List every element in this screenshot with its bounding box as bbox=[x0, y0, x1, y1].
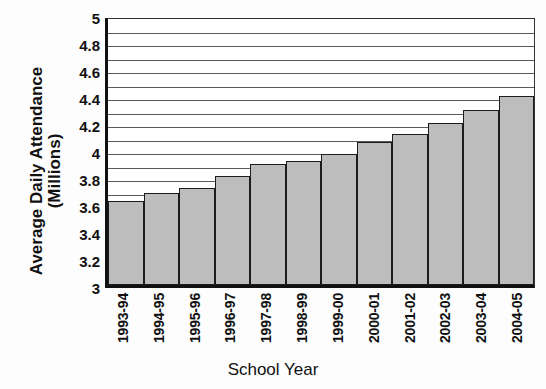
x-axis-tick-cell: 2003-04 bbox=[463, 291, 499, 357]
y-axis-tick-label: 3.8 bbox=[79, 172, 100, 189]
x-axis-tick-label: 1994-95 bbox=[151, 293, 167, 343]
x-axis-tick-cell: 1998-99 bbox=[284, 291, 320, 357]
x-axis-title: School Year bbox=[0, 360, 546, 380]
x-axis-tick-label: 2001-02 bbox=[402, 293, 418, 343]
y-axis-tick-labels: 54.84.64.44.243.83.63.43.23 bbox=[52, 18, 100, 288]
y-axis-tick-label: 5 bbox=[92, 10, 100, 27]
y-axis-tick-label: 4 bbox=[92, 145, 100, 162]
y-axis-tick-label: 4.6 bbox=[79, 64, 100, 81]
plot-area bbox=[105, 18, 535, 288]
y-axis-tick-label: 3 bbox=[92, 280, 100, 297]
x-axis-tick-cell: 2000-01 bbox=[356, 291, 392, 357]
x-axis-tick-label: 1995-96 bbox=[187, 293, 203, 343]
bar bbox=[144, 193, 180, 285]
y-axis-title-line-1: Average Daily Attendance bbox=[28, 67, 46, 275]
bar bbox=[428, 123, 464, 285]
x-axis-tick-cell: 1993-94 bbox=[105, 291, 141, 357]
x-axis-tick-cell: 1996-97 bbox=[212, 291, 248, 357]
bar bbox=[499, 96, 535, 285]
clipped-chart-title bbox=[300, 0, 546, 5]
x-axis-tick-label: 1997-98 bbox=[258, 293, 274, 343]
x-axis-tick-cell: 1995-96 bbox=[177, 291, 213, 357]
bar-series bbox=[108, 19, 534, 285]
x-axis-tick-label: 2004-05 bbox=[509, 293, 525, 343]
bar bbox=[108, 201, 144, 285]
bar bbox=[215, 176, 251, 285]
x-axis-tick-label: 2000-01 bbox=[366, 293, 382, 343]
bar bbox=[392, 134, 428, 285]
x-axis-tick-cell: 2004-05 bbox=[499, 291, 535, 357]
bar bbox=[357, 142, 393, 285]
x-axis-tick-cell: 2002-03 bbox=[427, 291, 463, 357]
bar bbox=[286, 161, 322, 285]
y-axis-tick-label: 4.2 bbox=[79, 118, 100, 135]
bar bbox=[463, 110, 499, 286]
y-axis-tick-label: 3.2 bbox=[79, 253, 100, 270]
x-axis-tick-label: 1996-97 bbox=[222, 293, 238, 343]
x-axis-tick-labels: 1993-941994-951995-961996-971997-981998-… bbox=[105, 291, 535, 357]
y-axis-tick-label: 4.8 bbox=[79, 37, 100, 54]
x-axis-tick-cell: 1997-98 bbox=[248, 291, 284, 357]
bar bbox=[250, 164, 286, 286]
bar bbox=[321, 154, 357, 285]
y-axis-tick-label: 3.6 bbox=[79, 199, 100, 216]
x-axis-tick-cell: 2001-02 bbox=[392, 291, 428, 357]
x-axis-tick-label: 2002-03 bbox=[437, 293, 453, 343]
bar-chart-figure: Average Daily Attendance (Millions) 54.8… bbox=[0, 0, 546, 389]
x-axis-tick-label: 1993-94 bbox=[115, 293, 131, 343]
x-axis-tick-label: 1998-99 bbox=[294, 293, 310, 343]
x-axis-tick-label: 1999-00 bbox=[330, 293, 346, 343]
y-axis-tick-label: 4.4 bbox=[79, 91, 100, 108]
bar bbox=[179, 188, 215, 285]
y-axis-tick-label: 3.4 bbox=[79, 226, 100, 243]
x-axis-tick-cell: 1994-95 bbox=[141, 291, 177, 357]
x-axis-tick-cell: 1999-00 bbox=[320, 291, 356, 357]
x-axis-tick-label: 2003-04 bbox=[473, 293, 489, 343]
